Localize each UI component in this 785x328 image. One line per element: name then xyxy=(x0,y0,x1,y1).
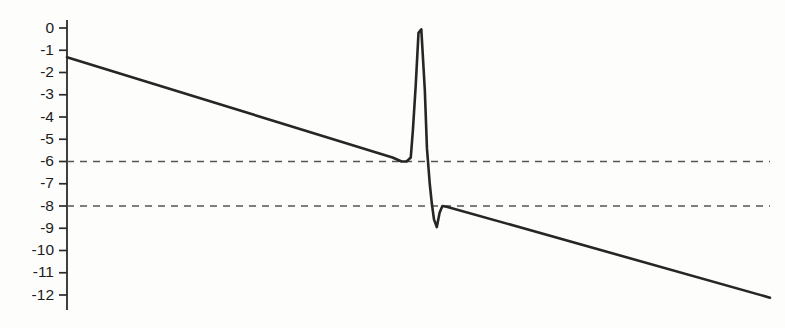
y-tick-label--5: -5 xyxy=(40,130,54,147)
y-tick-label--9: -9 xyxy=(40,219,54,236)
y-tick-label--8: -8 xyxy=(40,197,54,214)
y-tick-label--4: -4 xyxy=(40,108,54,125)
y-tick-label--2: -2 xyxy=(40,63,54,80)
y-tick-label--1: -1 xyxy=(40,41,54,58)
line-chart-canvas: 0-1-2-3-4-5-6-7-8-9-10-11-12 xyxy=(0,0,785,328)
chart-figure: 0-1-2-3-4-5-6-7-8-9-10-11-12 xyxy=(0,0,785,328)
y-tick-label--6: -6 xyxy=(40,152,54,169)
y-tick-label--10: -10 xyxy=(32,241,55,258)
y-tick-label--3: -3 xyxy=(40,85,54,102)
y-tick-label-0: 0 xyxy=(45,19,54,36)
chart-background xyxy=(0,0,785,328)
y-tick-label--7: -7 xyxy=(40,174,54,191)
y-tick-label--11: -11 xyxy=(33,263,54,280)
y-tick-label--12: -12 xyxy=(32,286,54,303)
